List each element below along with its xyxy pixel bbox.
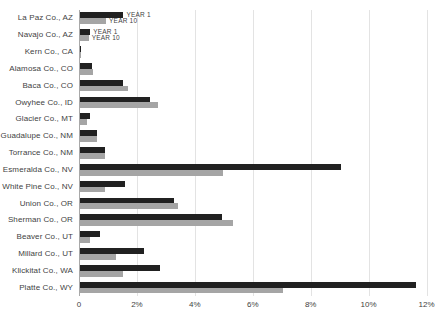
bar-year-10-glacier-co-mt	[80, 119, 87, 125]
bar-year-10-kern-co-ca	[80, 52, 81, 58]
category-label-millard-co-ut: Millard Co., UT	[0, 246, 73, 263]
bar-row-white-pine-co-nv	[80, 178, 435, 195]
category-label-union-co-or: Union Co., OR	[0, 195, 73, 212]
category-label-klickitat-co-wa: Klickitat Co., WA	[0, 262, 73, 279]
bar-year-10-millard-co-ut	[80, 254, 116, 260]
x-tick-label-8pct: 8%	[305, 301, 317, 309]
bar-year-10-beaver-co-ut	[80, 237, 90, 243]
bar-row-klickitat-co-wa	[80, 262, 435, 279]
bar-row-esmeralda-co-nv	[80, 161, 435, 178]
bar-year-10-sherman-co-or	[80, 220, 233, 226]
category-label-la-paz-co-az: La Paz Co., AZ	[0, 10, 73, 27]
category-label-owyhee-co-id: Owyhee Co., ID	[0, 94, 73, 111]
category-label-platte-co-wy: Platte Co., WY	[0, 279, 73, 296]
category-label-esmeralda-co-nv: Esmeralda Co., NV	[0, 161, 73, 178]
x-tick-label-0: 0	[77, 301, 81, 309]
plot-area: YEAR 1YEAR 10YEAR 1YEAR 10	[79, 10, 435, 296]
x-tick-label-12pct: 12%	[418, 301, 434, 309]
bar-row-millard-co-ut	[80, 246, 435, 263]
x-axis-tick-labels: 02%4%6%8%10%12%	[79, 299, 435, 313]
bar-row-beaver-co-ut	[80, 229, 435, 246]
bar-row-owyhee-co-id	[80, 94, 435, 111]
bar-row-glacier-co-mt	[80, 111, 435, 128]
series-inline-label-year-10: YEAR 10	[109, 18, 137, 25]
y-axis-category-labels: La Paz Co., AZNavajo Co., AZKern Co., CA…	[0, 10, 73, 296]
bar-year-10-alamosa-co-co	[80, 69, 93, 75]
bar-row-torrance-co-nm	[80, 145, 435, 162]
bar-row-la-paz-co-az: YEAR 1YEAR 10	[80, 10, 435, 27]
bar-year-10-klickitat-co-wa	[80, 271, 123, 277]
bar-row-guadalupe-co-nm	[80, 128, 435, 145]
bar-row-alamosa-co-co	[80, 60, 435, 77]
category-label-beaver-co-ut: Beaver Co., UT	[0, 229, 73, 246]
category-label-glacier-co-mt: Glacier Co., MT	[0, 111, 73, 128]
category-label-alamosa-co-co: Alamosa Co., CO	[0, 60, 73, 77]
bar-year-10-platte-co-wy	[80, 288, 283, 294]
bar-rows: YEAR 1YEAR 10YEAR 1YEAR 10	[80, 10, 435, 296]
bar-year-10-la-paz-co-az: YEAR 10	[80, 18, 106, 24]
bar-row-platte-co-wy	[80, 279, 435, 296]
bar-row-sherman-co-or	[80, 212, 435, 229]
bar-row-navajo-co-az: YEAR 1YEAR 10	[80, 27, 435, 44]
category-label-guadalupe-co-nm: Guadalupe Co., NM	[0, 128, 73, 145]
category-label-baca-co-co: Baca Co., CO	[0, 77, 73, 94]
x-tick-label-4pct: 4%	[189, 301, 201, 309]
x-tick-label-2pct: 2%	[131, 301, 143, 309]
series-inline-label-year-10: YEAR 10	[92, 35, 120, 42]
bar-row-baca-co-co	[80, 77, 435, 94]
category-label-kern-co-ca: Kern Co., CA	[0, 44, 73, 61]
category-label-sherman-co-or: Sherman Co., OR	[0, 212, 73, 229]
bar-year-10-owyhee-co-id	[80, 102, 158, 108]
category-label-navajo-co-az: Navajo Co., AZ	[0, 27, 73, 44]
horizontal-bar-chart: La Paz Co., AZNavajo Co., AZKern Co., CA…	[0, 0, 444, 327]
x-tick-label-6pct: 6%	[247, 301, 259, 309]
category-label-torrance-co-nm: Torrance Co., NM	[0, 145, 73, 162]
x-tick-label-10pct: 10%	[361, 301, 377, 309]
bar-year-10-baca-co-co	[80, 86, 128, 92]
bar-year-10-esmeralda-co-nv	[80, 170, 223, 176]
bar-year-10-torrance-co-nm	[80, 153, 105, 159]
category-label-white-pine-co-nv: White Pine Co., NV	[0, 178, 73, 195]
bar-year-10-navajo-co-az: YEAR 10	[80, 35, 89, 41]
bar-year-10-union-co-or	[80, 203, 178, 209]
bar-row-kern-co-ca	[80, 44, 435, 61]
bar-year-10-white-pine-co-nv	[80, 187, 105, 193]
bar-row-union-co-or	[80, 195, 435, 212]
bar-year-10-guadalupe-co-nm	[80, 136, 97, 142]
